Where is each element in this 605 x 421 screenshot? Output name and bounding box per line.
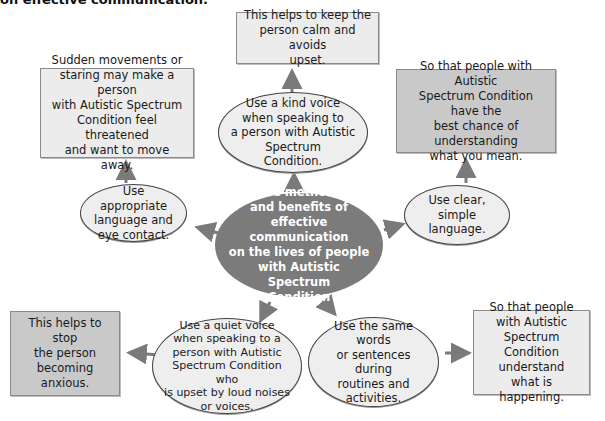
benefit-box-best-chance: So that people with Autistic Spectrum Co… — [396, 69, 556, 153]
center-text: The methods and benefits of effective co… — [225, 185, 373, 305]
benefit-text: Sudden movements or staring may make a p… — [47, 53, 187, 173]
center-topic: The methods and benefits of effective co… — [215, 193, 383, 297]
method-oval-kind-voice: Use a kind voice when speaking to a pers… — [218, 92, 368, 173]
benefit-text: So that people with Autistic Spectrum Co… — [403, 59, 549, 164]
benefit-box-stop-anxious: This helps to stop the person becoming a… — [10, 311, 120, 396]
arrow-center-to-clear — [384, 225, 400, 230]
method-oval-appropriate-language: Use appropriate language and eye contact… — [80, 184, 187, 242]
benefit-box-sudden-movements: Sudden movements or staring may make a p… — [40, 68, 194, 158]
method-text: Use clear, simple language. — [415, 193, 499, 237]
method-oval-clear-language: Use clear, simple language. — [404, 185, 510, 245]
method-text: Use a quiet voice when speaking to a per… — [163, 319, 291, 414]
benefit-text: This helps to stop the person becoming a… — [17, 316, 113, 391]
method-text: Use the same words or sentences during r… — [319, 319, 428, 406]
method-oval-quiet-voice: Use a quiet voice when speaking to a per… — [152, 318, 302, 414]
benefit-box-understand: So that people with Autistic Spectrum Co… — [473, 310, 590, 395]
method-oval-same-words: Use the same words or sentences during r… — [308, 317, 439, 407]
benefit-box-calm: This helps to keep the person calm and a… — [236, 12, 379, 64]
benefit-text: This helps to keep the person calm and a… — [243, 8, 372, 68]
arrow-center-to-appropriate — [200, 228, 218, 233]
benefit-text: So that people with Autistic Spectrum Co… — [480, 300, 583, 405]
method-text: Use a kind voice when speaking to a pers… — [231, 96, 356, 169]
method-text: Use appropriate language and eye contact… — [91, 184, 176, 242]
